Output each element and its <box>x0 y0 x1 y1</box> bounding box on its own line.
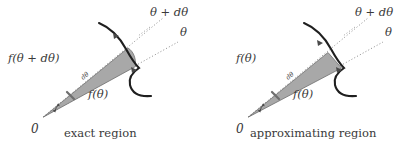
ray-theta-plus-dtheta <box>248 18 368 117</box>
label-origin: 0 <box>236 122 244 136</box>
label-f-theta-lower: f(θ) <box>292 87 313 101</box>
label-theta-plus-dtheta: θ + dθ <box>150 5 188 19</box>
label-f-theta: f(θ) <box>87 87 108 101</box>
polar-area-diagram: θ + dθ θ f(θ + dθ) f(θ) dθ 0 exact regio… <box>0 0 410 144</box>
exact-region-svg: θ + dθ θ f(θ + dθ) f(θ) dθ 0 exact regio… <box>0 0 205 144</box>
ray-theta-plus-dtheta <box>43 18 163 117</box>
caption-exact-region: exact region <box>64 126 137 140</box>
label-theta-plus-dtheta: θ + dθ <box>355 5 393 19</box>
label-theta: θ <box>385 25 392 39</box>
wedge-arrowhead-upper <box>317 40 323 46</box>
leader-theta-plus-dtheta <box>138 27 150 36</box>
label-theta: θ <box>180 25 187 39</box>
figure-approximating-region: θ + dθ θ f(θ) f(θ) dθ 0 approximating re… <box>205 0 410 144</box>
figure-exact-region: θ + dθ θ f(θ + dθ) f(θ) dθ 0 exact regio… <box>0 0 205 144</box>
label-origin: 0 <box>31 122 39 136</box>
approximating-region-svg: θ + dθ θ f(θ) f(θ) dθ 0 approximating re… <box>205 0 410 144</box>
caption-approximating-region: approximating region <box>250 126 377 140</box>
approximating-wedge-region <box>249 53 342 118</box>
label-f-theta-upper: f(θ) <box>235 51 256 65</box>
label-f-theta-plus-dtheta: f(θ + dθ) <box>7 51 59 65</box>
leader-theta-plus-dtheta <box>343 27 355 36</box>
